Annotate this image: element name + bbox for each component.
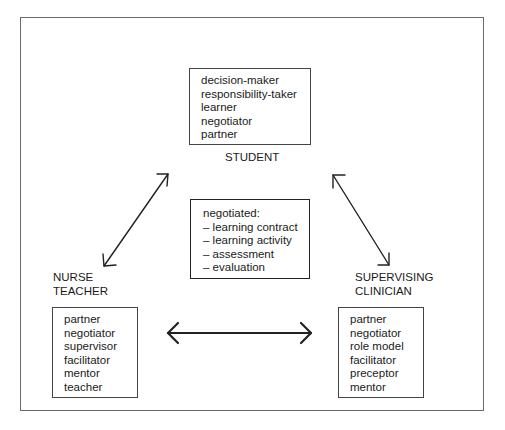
student-clinician-arrow bbox=[333, 175, 389, 265]
teacher-clinician-arrow bbox=[168, 323, 311, 343]
teacher-student-arrow bbox=[103, 174, 168, 266]
connection-arrows bbox=[0, 0, 505, 430]
